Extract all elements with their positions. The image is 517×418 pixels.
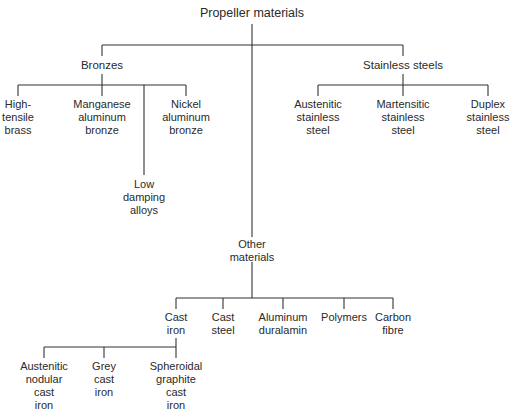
node-stainless-steels: Stainless steels (363, 58, 443, 73)
node-austenitic-stainless-steel: Austenitic stainless steel (294, 98, 342, 137)
node-spheroidal-graphite-cast-iron: Spheroidal graphite cast iron (150, 360, 203, 412)
node-grey-cast-iron: Grey cast iron (92, 360, 116, 399)
node-nickel-aluminum-bronze: Nickel aluminum bronze (162, 98, 210, 137)
root-node: Propeller materials (200, 6, 304, 21)
node-other-materials: Other materials (230, 238, 275, 264)
node-low-damping-alloys: Low damping alloys (123, 178, 165, 217)
node-cast-iron: Cast iron (165, 311, 188, 337)
node-manganese-aluminum-bronze: Manganese aluminum bronze (73, 98, 131, 137)
node-aluminum-duralamin: Aluminum duralamin (259, 311, 308, 337)
node-martensitic-stainless-steel: Martensitic stainless steel (376, 98, 429, 137)
node-duplex-stainless-steel: Duplex stainless steel (467, 98, 510, 137)
node-polymers: Polymers (321, 311, 367, 324)
node-carbon-fibre: Carbon fibre (375, 311, 411, 337)
node-cast-steel: Cast steel (211, 311, 234, 337)
node-austenitic-nodular-cast-iron: Austenitic nodular cast iron (20, 360, 68, 412)
node-high-tensile-brass: High- tensile brass (2, 98, 34, 137)
node-bronzes: Bronzes (81, 58, 123, 73)
